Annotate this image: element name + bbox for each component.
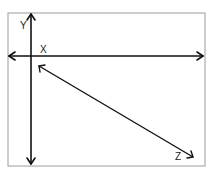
y-axis: [27, 14, 35, 164]
diagram-frame: [8, 13, 205, 166]
y-axis-label: Y: [20, 20, 27, 31]
z-axis: [39, 65, 193, 158]
z-axis-label: Z: [175, 151, 181, 162]
x-axis-label: X: [40, 44, 47, 55]
x-axis: [9, 52, 203, 60]
axes-diagram: Y X Z: [0, 0, 213, 174]
